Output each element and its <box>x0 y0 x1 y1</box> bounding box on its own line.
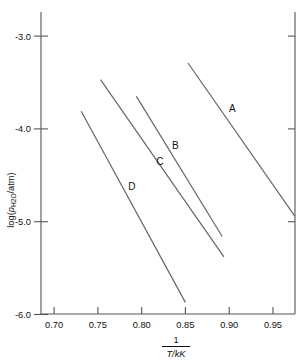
x-axis-title: 1 T/kK <box>162 335 190 359</box>
y-axis-title: log(pH2O/atm) <box>6 172 17 227</box>
x-tick-marks <box>54 307 273 314</box>
x-tick-labels: 0.70 0.75 0.80 0.85 0.90 0.95 <box>45 320 282 330</box>
series-lines <box>81 63 295 302</box>
y-tick-outer-marks <box>34 36 41 314</box>
y-axis-title-prefix: log( <box>6 211 16 227</box>
series-label-c: C <box>156 156 163 167</box>
series-line-a <box>188 63 295 216</box>
y-tick-label: -5.0 <box>15 217 31 227</box>
y-tick-labels: -3.0 -4.0 -5.0 -6.0 <box>15 32 31 320</box>
series-line-d <box>81 111 185 302</box>
y-tick-label: -3.0 <box>15 32 31 42</box>
y-tick-label: -6.0 <box>15 310 31 320</box>
series-line-b <box>136 96 222 236</box>
y-axis-title-suffix: /atm) <box>6 172 16 193</box>
chart-figure: -3.0 -4.0 -5.0 -6.0 0.70 0.75 0.80 0.85 … <box>0 0 304 360</box>
y-tick-label: -4.0 <box>15 124 31 134</box>
x-tick-label: 0.95 <box>264 320 282 330</box>
series-labels: A B C D <box>128 103 236 192</box>
x-tick-label: 0.85 <box>176 320 194 330</box>
y-tick-marks <box>41 36 295 314</box>
series-label-d: D <box>128 181 135 192</box>
series-label-b: B <box>172 140 179 151</box>
x-tick-label: 0.75 <box>89 320 107 330</box>
svg-text:log(pH2O/atm): log(pH2O/atm) <box>6 172 17 227</box>
series-line-c <box>101 80 224 257</box>
x-axis-title-denominator: T/kK <box>166 349 186 359</box>
x-tick-label: 0.90 <box>220 320 238 330</box>
x-tick-label: 0.80 <box>133 320 151 330</box>
chart-canvas: -3.0 -4.0 -5.0 -6.0 0.70 0.75 0.80 0.85 … <box>0 0 304 360</box>
series-label-a: A <box>229 103 236 114</box>
x-axis-title-numerator: 1 <box>173 335 178 345</box>
x-tick-label: 0.70 <box>45 320 63 330</box>
